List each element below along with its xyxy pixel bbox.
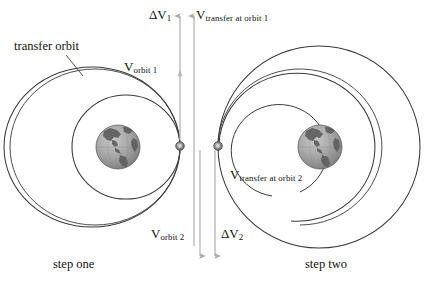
label-v-orbit-2: Vorbit 2 xyxy=(151,227,184,242)
delta-v1-symbol: ΔV xyxy=(149,7,167,22)
left-transfer-orbit-ellipse xyxy=(4,67,180,227)
delta-v1-subscript: 1 xyxy=(167,13,172,23)
velocity-arrows xyxy=(177,16,215,256)
spacecraft-dot-left xyxy=(176,142,184,150)
label-transfer-orbit: transfer orbit xyxy=(14,40,79,53)
v-orbit2-symbol: V xyxy=(151,226,160,241)
caption-step-one: step one xyxy=(53,258,94,271)
label-v-transfer-at-orbit-2: Vtransfer at orbit 2 xyxy=(230,168,302,183)
label-delta-v1: ΔV1 xyxy=(149,8,171,23)
earth-globe-right xyxy=(298,125,342,169)
panel-step-one xyxy=(4,55,184,227)
caption-step-two: step two xyxy=(305,258,347,271)
label-v-transfer-at-orbit-1: Vtransfer at orbit 1 xyxy=(196,8,268,23)
v-orbit2-subscript: orbit 2 xyxy=(160,232,184,242)
delta-v2-symbol: ΔV xyxy=(221,226,239,241)
v-transfer-orbit1-subscript: transfer at orbit 1 xyxy=(205,13,268,23)
hohmann-transfer-diagram: transfer orbit ΔV1 Vtransfer at orbit 1 … xyxy=(0,0,445,282)
label-delta-v2: ΔV2 xyxy=(221,227,243,242)
earth-globe-left xyxy=(96,125,140,169)
delta-v2-subscript: 2 xyxy=(239,232,244,242)
v-orbit1-symbol: V xyxy=(124,59,133,74)
v-transfer-orbit2-subscript: transfer at orbit 2 xyxy=(239,173,302,183)
v-orbit1-subscript: orbit 1 xyxy=(133,65,157,75)
label-v-orbit-1: Vorbit 1 xyxy=(124,60,157,75)
caption-step-one-text: step one xyxy=(53,257,94,271)
transfer-orbit-text: transfer orbit xyxy=(14,39,79,53)
panel-step-two xyxy=(214,46,420,248)
caption-step-two-text: step two xyxy=(305,257,347,271)
v-transfer-orbit2-symbol: V xyxy=(230,167,239,182)
v-transfer-orbit1-symbol: V xyxy=(196,7,205,22)
spacecraft-dot-right xyxy=(214,142,222,150)
